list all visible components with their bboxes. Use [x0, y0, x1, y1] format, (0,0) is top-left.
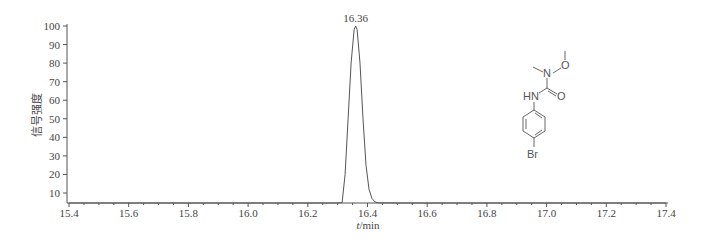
x-tick-label: 16.6 [418, 207, 438, 219]
peak-label: 16.36 [343, 12, 368, 24]
x-ticks: 15.415.615.816.016.216.416.616.817.017.2… [59, 203, 676, 219]
chromatogram-trace [69, 26, 666, 203]
bond [535, 113, 542, 118]
chemical-structure-inset: O N O HN Br [523, 51, 570, 160]
atom-o-carbonyl: O [557, 90, 566, 102]
y-ticks: 102030405060708090100 [44, 20, 68, 199]
y-axis-label: 信号强度 [30, 93, 43, 137]
x-tick-label: 15.6 [119, 207, 139, 219]
atom-br: Br [527, 148, 538, 160]
bond [548, 91, 556, 96]
y-tick-label: 80 [49, 57, 61, 69]
y-tick-label: 60 [49, 94, 61, 106]
atom-n: N [543, 67, 551, 79]
x-tick-label: 16.2 [298, 207, 317, 219]
x-axis-label: t/min [356, 219, 380, 231]
atom-o-methoxy: O [561, 59, 570, 71]
atom-nh: HN [523, 90, 539, 102]
bond [535, 130, 542, 135]
bond [553, 68, 561, 73]
x-tick-label: 15.8 [179, 207, 199, 219]
y-tick-label: 40 [49, 131, 61, 143]
chromatogram-chart: 102030405060708090100 15.415.615.816.016… [0, 0, 706, 242]
x-tick-label: 16.0 [238, 207, 258, 219]
y-tick-label: 30 [49, 150, 61, 162]
x-tick-label: 17.2 [597, 207, 616, 219]
x-tick-label: 17.4 [656, 207, 676, 219]
y-tick-label: 50 [49, 113, 61, 125]
bond [533, 67, 543, 72]
x-tick-label: 16.4 [358, 207, 378, 219]
x-tick-label: 17.0 [537, 207, 557, 219]
y-tick-label: 90 [49, 39, 61, 51]
y-tick-label: 70 [49, 76, 61, 88]
x-tick-label: 15.4 [59, 207, 79, 219]
bond [539, 88, 547, 93]
x-tick-label: 16.8 [477, 207, 497, 219]
y-tick-label: 100 [44, 20, 61, 32]
y-tick-label: 20 [49, 168, 61, 180]
y-tick-label: 10 [49, 187, 61, 199]
x-axis-label-unit: /min [359, 219, 380, 231]
